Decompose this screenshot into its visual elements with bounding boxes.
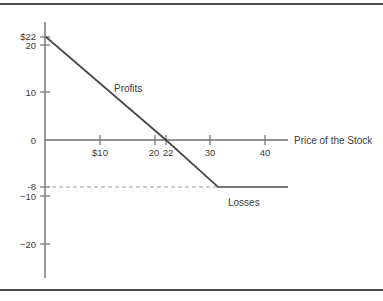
x-label-22: 22 xyxy=(163,147,174,158)
y-label-neg10: −10 xyxy=(20,191,36,202)
x-label-40: 40 xyxy=(260,147,271,158)
x-label-30: 30 xyxy=(205,147,216,158)
x-axis-title: Price of the Stock xyxy=(294,135,373,146)
x-label-20: 20 xyxy=(149,147,160,158)
annotation-losses: Losses xyxy=(228,197,260,208)
annotation-profits: Profits xyxy=(114,83,142,94)
y-label-0: 0 xyxy=(31,135,36,146)
payoff-plot: $22 20 10 0 -8 −10 −20 $10 20 22 30 40 P… xyxy=(0,0,383,301)
x-label-10: $10 xyxy=(92,147,108,158)
y-label-neg20: −20 xyxy=(20,239,36,250)
y-label-10: 10 xyxy=(25,87,36,98)
payoff-chart-figure: $22 20 10 0 -8 −10 −20 $10 20 22 30 40 P… xyxy=(0,0,383,301)
payoff-line xyxy=(46,37,288,187)
y-label-20: 20 xyxy=(25,40,36,51)
